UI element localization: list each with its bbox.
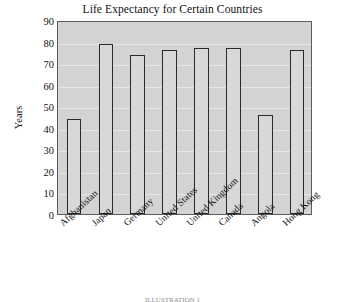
gridline bbox=[58, 65, 311, 66]
y-axis-title: Years bbox=[13, 88, 24, 148]
y-tick-label: 20 bbox=[14, 166, 54, 177]
bar bbox=[130, 55, 145, 215]
y-tick-label: 0 bbox=[14, 210, 54, 221]
y-tick-label: 80 bbox=[14, 37, 54, 48]
bar bbox=[258, 115, 273, 214]
gridline bbox=[58, 108, 311, 109]
gridline bbox=[58, 151, 311, 152]
y-tick-label: 30 bbox=[14, 145, 54, 156]
y-tick-label: 50 bbox=[14, 102, 54, 113]
gridline bbox=[58, 173, 311, 174]
gridline bbox=[58, 87, 311, 88]
bar bbox=[290, 50, 305, 214]
plot-area bbox=[57, 21, 312, 215]
y-tick-label: 60 bbox=[14, 80, 54, 91]
y-tick-label: 70 bbox=[14, 59, 54, 70]
y-tick-label: 40 bbox=[14, 123, 54, 134]
y-tick-label: 10 bbox=[14, 188, 54, 199]
y-tick-label: 90 bbox=[14, 16, 54, 27]
gridline bbox=[58, 44, 311, 45]
bar bbox=[162, 50, 177, 214]
clipped-caption: ILLUSTRATION 1 bbox=[0, 296, 345, 302]
gridline bbox=[58, 130, 311, 131]
chart-title: Life Expectancy for Certain Countries bbox=[0, 3, 345, 15]
bar-chart-figure: Life Expectancy for Certain Countries Ye… bbox=[0, 0, 345, 302]
bar bbox=[99, 44, 114, 214]
